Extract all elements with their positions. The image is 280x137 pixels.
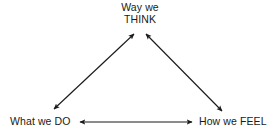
connector-think-feel — [146, 34, 222, 111]
node-label-do: What we DO — [10, 116, 71, 128]
node-label-think-line2: THINK — [0, 14, 280, 26]
node-label-think: Way we THINK — [0, 2, 280, 25]
cbt-triangle-diagram: Way we THINK What we DO How we FEEL — [0, 0, 280, 137]
node-label-think-line1: Way we — [0, 2, 280, 14]
node-label-feel: How we FEEL — [199, 116, 267, 128]
connector-do-think — [54, 34, 134, 109]
